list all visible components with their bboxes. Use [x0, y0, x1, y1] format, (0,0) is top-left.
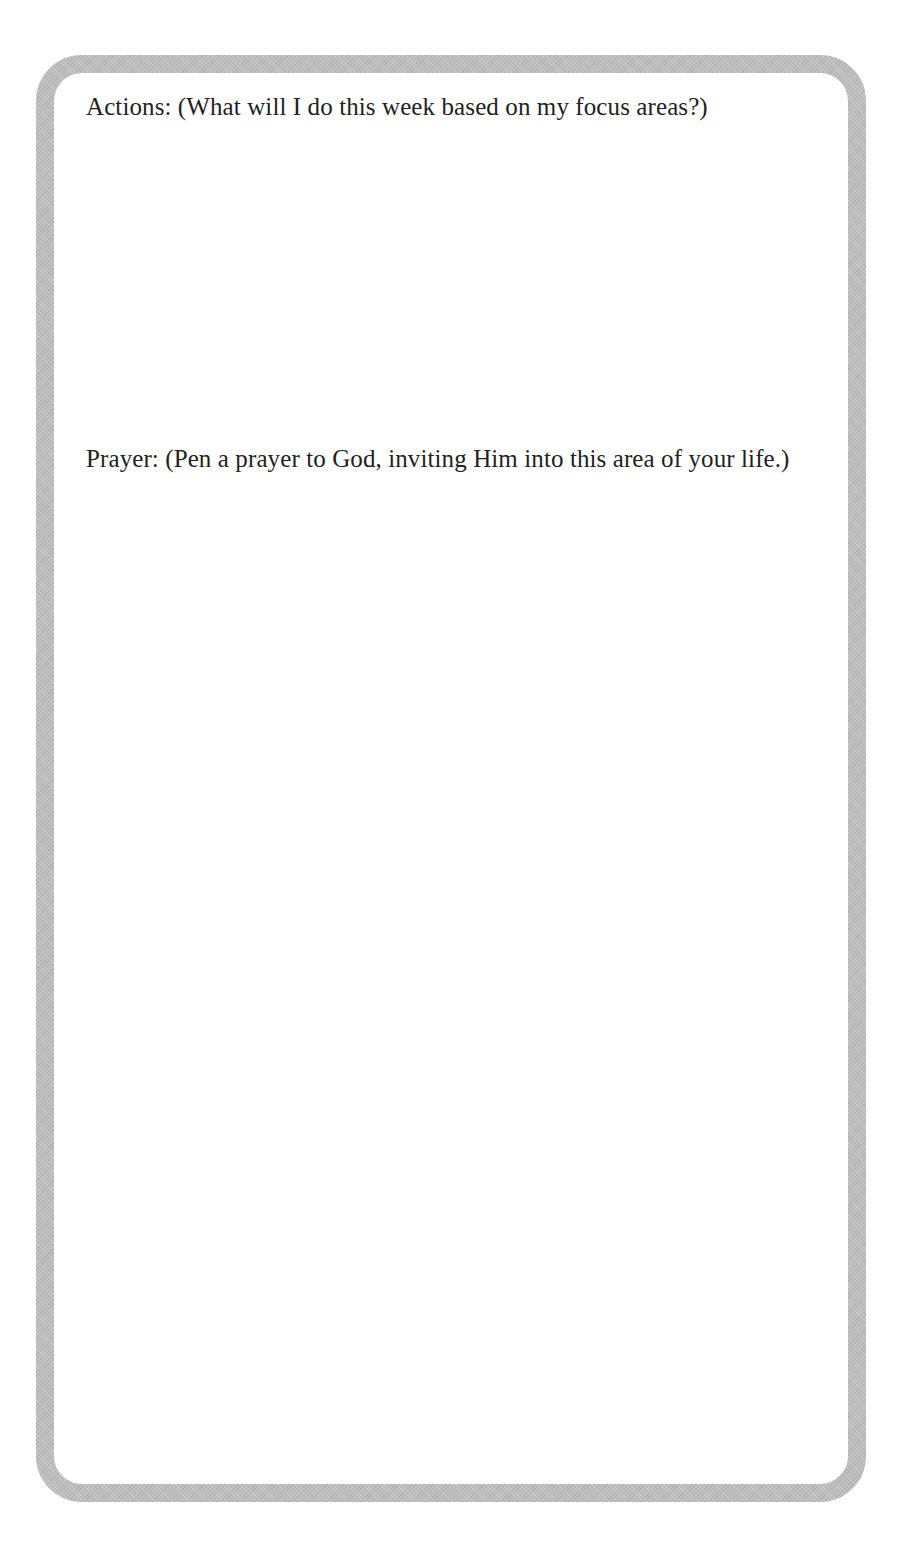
prayer-writing-area[interactable] [86, 533, 816, 1454]
prayer-prompt: Prayer: (Pen a prayer to God, inviting H… [86, 439, 816, 479]
journal-card: Actions: (What will I do this week based… [36, 55, 866, 1502]
actions-prompt: Actions: (What will I do this week based… [86, 87, 816, 127]
actions-writing-area[interactable] [86, 133, 816, 423]
